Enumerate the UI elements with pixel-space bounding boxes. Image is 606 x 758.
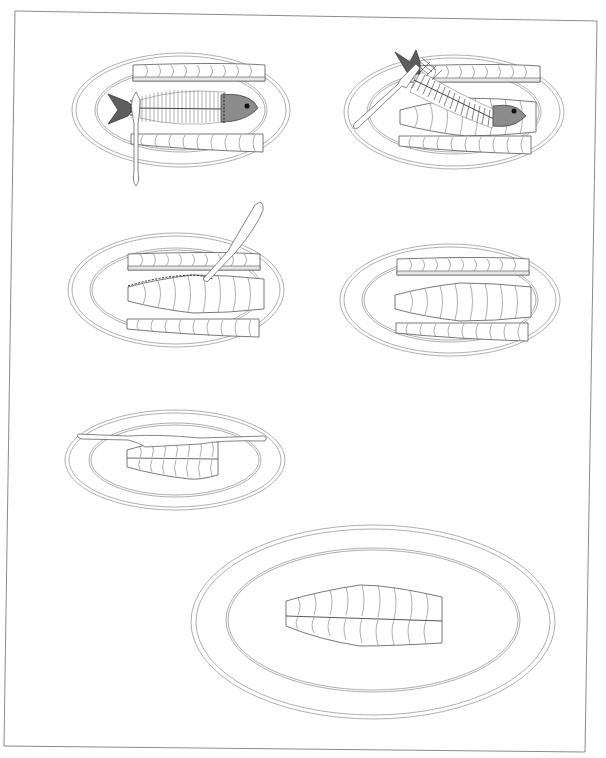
step-1-cut-along-spine: [72, 53, 290, 186]
top-fillet: [128, 253, 260, 271]
middle-fillet: [395, 283, 531, 321]
bottom-fillet: [396, 323, 528, 341]
fish-head: [221, 94, 258, 122]
joined-fillet-large: [286, 585, 442, 646]
fish-tail: [108, 94, 134, 124]
bottom-fillet: [127, 319, 259, 337]
step-4-fillets-arranged: [340, 244, 560, 356]
fish-eye: [245, 104, 250, 109]
fish-skeleton: [130, 90, 225, 124]
top-fillet: [133, 64, 265, 82]
bottom-fillet: [399, 136, 531, 154]
fish-filleting-diagram: [0, 0, 606, 758]
step-5-reassemble-fillet: [65, 410, 285, 510]
top-fillet: [397, 258, 529, 276]
step-2-lift-skeleton: [344, 50, 564, 169]
step-3-trim-fillet: [68, 202, 284, 347]
fish-eye: [512, 109, 517, 114]
step-6-served-fillet: [191, 525, 555, 719]
